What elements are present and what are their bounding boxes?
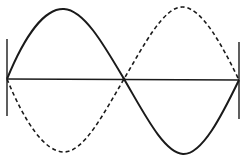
standing-wave-diagram	[0, 0, 242, 163]
center-node	[123, 78, 126, 81]
